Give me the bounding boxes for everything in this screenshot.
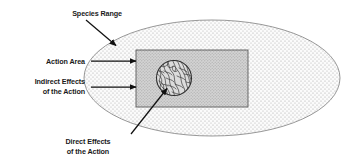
diagram-canvas: Species Range Action Area Indirect Effec… xyxy=(0,0,354,167)
arrow-species-range xyxy=(86,20,116,46)
label-action-area: Action Area xyxy=(0,57,85,67)
label-species-range-text: Species Range xyxy=(72,9,122,18)
label-indirect-effects: Indirect Effects of the Action xyxy=(0,77,85,96)
label-indirect-effects-line2: of the Action xyxy=(0,87,85,97)
label-direct-effects: Direct Effects of the Action xyxy=(46,137,130,156)
label-species-range: Species Range xyxy=(0,9,122,19)
label-action-area-text: Action Area xyxy=(46,57,85,66)
label-direct-effects-line2: of the Action xyxy=(46,147,130,157)
label-direct-effects-line1: Direct Effects xyxy=(46,137,130,147)
label-indirect-effects-line1: Indirect Effects xyxy=(0,77,85,87)
